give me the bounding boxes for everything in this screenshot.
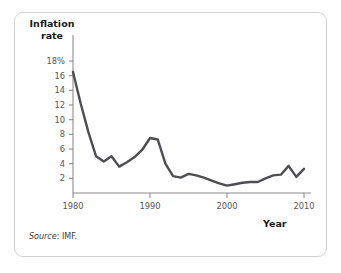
x-tick-label: 1990 [130,201,170,211]
y-tick-label: 16 [35,71,65,81]
y-tick-label: 12 [35,100,65,110]
source-note: Source: IMF. [29,232,77,241]
y-tick-label: 2 [35,173,65,183]
y-tick-label: 6 [35,144,65,154]
x-tick-label: 2000 [207,201,247,211]
source-note-label: Source [29,232,57,241]
y-tick-label: 8 [35,129,65,139]
y-tick-label: 14 [35,85,65,95]
figure-panel: Inflation rate Year Source: IMF. 2468101… [14,12,327,257]
source-note-value: : IMF. [57,232,77,241]
x-tick-label: 1980 [53,201,93,211]
y-tick-label: 18% [35,56,65,66]
x-axis-title: Year [263,218,287,230]
x-tick-label: 2010 [284,201,324,211]
y-tick-label: 4 [35,159,65,169]
y-tick-label: 10 [35,115,65,125]
